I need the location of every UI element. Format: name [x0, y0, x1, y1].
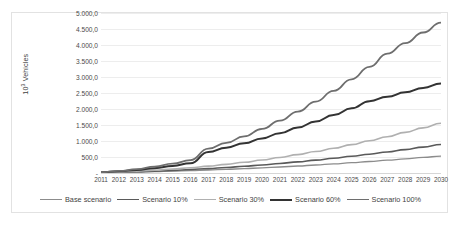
y-axis-title: 103 Vehicles: [20, 38, 30, 110]
x-axis-tick-label: 2030: [426, 175, 456, 184]
y-axis-tick-label: 4.500,0: [42, 26, 98, 33]
legend-item[interactable]: Base scenario: [40, 195, 111, 204]
legend-swatch-icon: [194, 199, 216, 200]
legend-item[interactable]: Scenario 30%: [194, 195, 264, 204]
legend-swatch-icon: [347, 199, 369, 200]
y-axis-tick-label: 5.000,0: [42, 10, 98, 17]
legend-item[interactable]: Scenario 60%: [270, 195, 340, 204]
y-axis-tick-label: 3.000,0: [42, 74, 98, 81]
legend-item[interactable]: Scenario 100%: [347, 195, 422, 204]
legend-label: Scenario 30%: [219, 195, 264, 204]
legend-label: Scenario 60%: [295, 195, 340, 204]
legend-swatch-icon: [270, 199, 292, 201]
series-lines: [101, 13, 441, 173]
series-line: [101, 123, 441, 172]
plot-area: 103 Vehicles -500,01.000,01.500,02.000,0…: [12, 13, 449, 173]
axis-baseline: [101, 173, 441, 174]
chart-legend: Base scenarioScenario 10%Scenario 30%Sce…: [12, 195, 449, 204]
x-axis-tick-labels: 2011201220132014201520162017201820192020…: [101, 175, 441, 187]
y-axis-tick-label: 1.000,0: [42, 138, 98, 145]
legend-item[interactable]: Scenario 10%: [117, 195, 187, 204]
y-axis-tick-label: 4.000,0: [42, 42, 98, 49]
legend-label: Scenario 100%: [372, 195, 422, 204]
y-axis-tick-label: 2.500,0: [42, 90, 98, 97]
legend-label: Base scenario: [65, 195, 111, 204]
legend-label: Scenario 10%: [142, 195, 187, 204]
y-axis-tick-label: 1.500,0: [42, 122, 98, 129]
y-axis-tick-labels: -500,01.000,01.500,02.000,02.500,03.000,…: [42, 13, 98, 173]
legend-swatch-icon: [117, 199, 139, 200]
y-axis-tick-label: 3.500,0: [42, 58, 98, 65]
y-axis-tick-label: 500,0: [42, 154, 98, 161]
y-axis-tick-label: 2.000,0: [42, 106, 98, 113]
legend-swatch-icon: [40, 199, 62, 200]
chart-figure: 103 Vehicles -500,01.000,01.500,02.000,0…: [11, 12, 448, 213]
